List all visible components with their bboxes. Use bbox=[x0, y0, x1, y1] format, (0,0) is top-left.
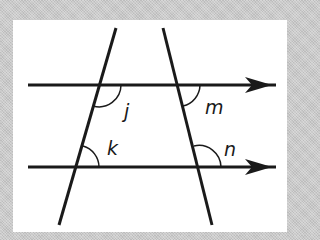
right-transversal bbox=[163, 28, 212, 225]
angle-label-j: j bbox=[121, 100, 130, 122]
angle-label-n: n bbox=[224, 138, 236, 160]
angle-diagram: j m k n bbox=[0, 0, 301, 235]
angle-arc-m bbox=[183, 85, 200, 106]
angle-label-m: m bbox=[205, 96, 224, 118]
left-transversal bbox=[59, 28, 116, 225]
angle-arc-k bbox=[83, 146, 99, 167]
angle-label-k: k bbox=[107, 137, 119, 159]
